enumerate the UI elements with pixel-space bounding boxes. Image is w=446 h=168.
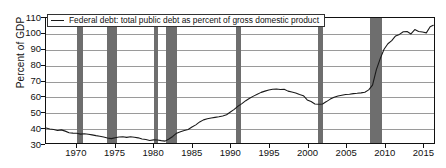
x-tick-mark-2005 — [346, 144, 347, 148]
chart-legend: Federal debt: total public debt as perce… — [47, 14, 325, 27]
x-tick-mark-2015 — [423, 144, 424, 148]
x-tick-label-1985: 1985 — [172, 148, 212, 158]
x-tick-label-2000: 2000 — [288, 148, 328, 158]
y-tick-label-30: 30 — [0, 140, 41, 150]
y-tick-label-90: 90 — [0, 44, 41, 54]
x-tick-mark-1975 — [115, 144, 116, 148]
x-tick-label-1990: 1990 — [210, 148, 250, 158]
x-tick-label-1995: 1995 — [249, 148, 289, 158]
y-tick-mark-30 — [41, 144, 45, 145]
y-tick-label-100: 100 — [0, 28, 41, 38]
x-tick-label-2005: 2005 — [326, 148, 366, 158]
series-line-federal-debt — [46, 18, 434, 143]
x-tick-mark-1970 — [76, 144, 77, 148]
chart-container: Percent of GDP 11010090807060504030 1970… — [0, 0, 446, 168]
y-tick-label-50: 50 — [0, 108, 41, 118]
x-tick-mark-2000 — [308, 144, 309, 148]
plot-area — [45, 17, 435, 144]
x-tick-mark-1990 — [230, 144, 231, 148]
x-tick-mark-1980 — [153, 144, 154, 148]
y-tick-label-110: 110 — [0, 13, 41, 23]
x-tick-mark-1995 — [269, 144, 270, 148]
y-tick-label-60: 60 — [0, 92, 41, 102]
x-tick-mark-1985 — [192, 144, 193, 148]
legend-line-swatch — [51, 20, 64, 21]
x-tick-label-1975: 1975 — [95, 148, 135, 158]
x-tick-label-2015: 2015 — [403, 148, 443, 158]
x-tick-label-2010: 2010 — [365, 148, 405, 158]
y-tick-label-70: 70 — [0, 76, 41, 86]
x-tick-label-1980: 1980 — [133, 148, 173, 158]
legend-entry-label: Federal debt: total public debt as perce… — [69, 16, 319, 25]
y-tick-label-80: 80 — [0, 60, 41, 70]
y-tick-label-40: 40 — [0, 124, 41, 134]
x-tick-mark-2010 — [385, 144, 386, 148]
x-tick-label-1970: 1970 — [56, 148, 96, 158]
